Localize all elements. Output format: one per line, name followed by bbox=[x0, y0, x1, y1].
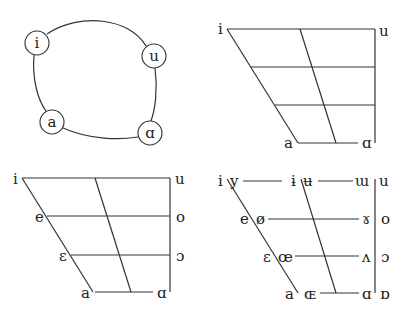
label-u: u bbox=[379, 22, 389, 40]
label-a: a bbox=[284, 134, 293, 152]
node-i-label: i bbox=[35, 34, 40, 52]
vowel-charts-figure: i u a ɑ i u a ɑ i e ɛ a u o ɔ ɑ bbox=[0, 0, 405, 317]
label-ɔ: ɔ bbox=[176, 247, 184, 265]
vowel-circle-diagram: i u a ɑ bbox=[25, 21, 166, 145]
label-ɑ: ɑ bbox=[362, 285, 372, 303]
arc-a-ɑ bbox=[63, 128, 138, 139]
label-ɛ: ɛ bbox=[263, 248, 271, 266]
label-ʉ: ʉ bbox=[303, 172, 313, 190]
label-ɔ: ɔ bbox=[381, 248, 389, 266]
label-ʌ: ʌ bbox=[361, 248, 371, 266]
label-œ: œ bbox=[278, 248, 293, 266]
vowel-trapezoid-basic: i u a ɑ bbox=[218, 20, 389, 152]
node-u-label: u bbox=[149, 47, 159, 65]
label-ɤ: ɤ bbox=[362, 210, 370, 228]
label-ɒ: ɒ bbox=[380, 285, 390, 303]
label-e: e bbox=[240, 210, 249, 228]
label-ɑ: ɑ bbox=[157, 284, 167, 302]
label-u: u bbox=[175, 170, 185, 188]
label-ø: ø bbox=[256, 210, 265, 228]
node-a-label: a bbox=[48, 113, 57, 131]
label-i: i bbox=[218, 172, 223, 190]
label-i: i bbox=[13, 170, 18, 188]
arc-u-ɑ bbox=[151, 68, 156, 121]
label-ɛ: ɛ bbox=[59, 247, 67, 265]
label-a: a bbox=[285, 285, 294, 303]
label-y: y bbox=[229, 172, 239, 190]
label-u: u bbox=[379, 172, 389, 190]
label-ɶ: ɶ bbox=[304, 285, 316, 303]
vowel-trapezoid-cardinal: i e ɛ a u o ɔ ɑ bbox=[13, 170, 185, 302]
label-a: a bbox=[81, 284, 90, 302]
label-ɯ: ɯ bbox=[355, 172, 369, 190]
label-e: e bbox=[35, 208, 44, 226]
label-ɨ: ɨ bbox=[291, 172, 296, 190]
vowel-trapezoid-full: i y ɨ ʉ ɯ u e ø ɤ o ɛ œ ʌ ɔ a ɶ ɑ ɒ bbox=[218, 172, 390, 303]
label-o: o bbox=[381, 210, 390, 228]
node-ɑ-label: ɑ bbox=[145, 124, 155, 142]
label-ɑ: ɑ bbox=[362, 134, 372, 152]
label-i: i bbox=[218, 20, 223, 38]
arc-i-u bbox=[47, 21, 146, 46]
label-o: o bbox=[176, 208, 185, 226]
arc-i-a bbox=[34, 55, 46, 111]
